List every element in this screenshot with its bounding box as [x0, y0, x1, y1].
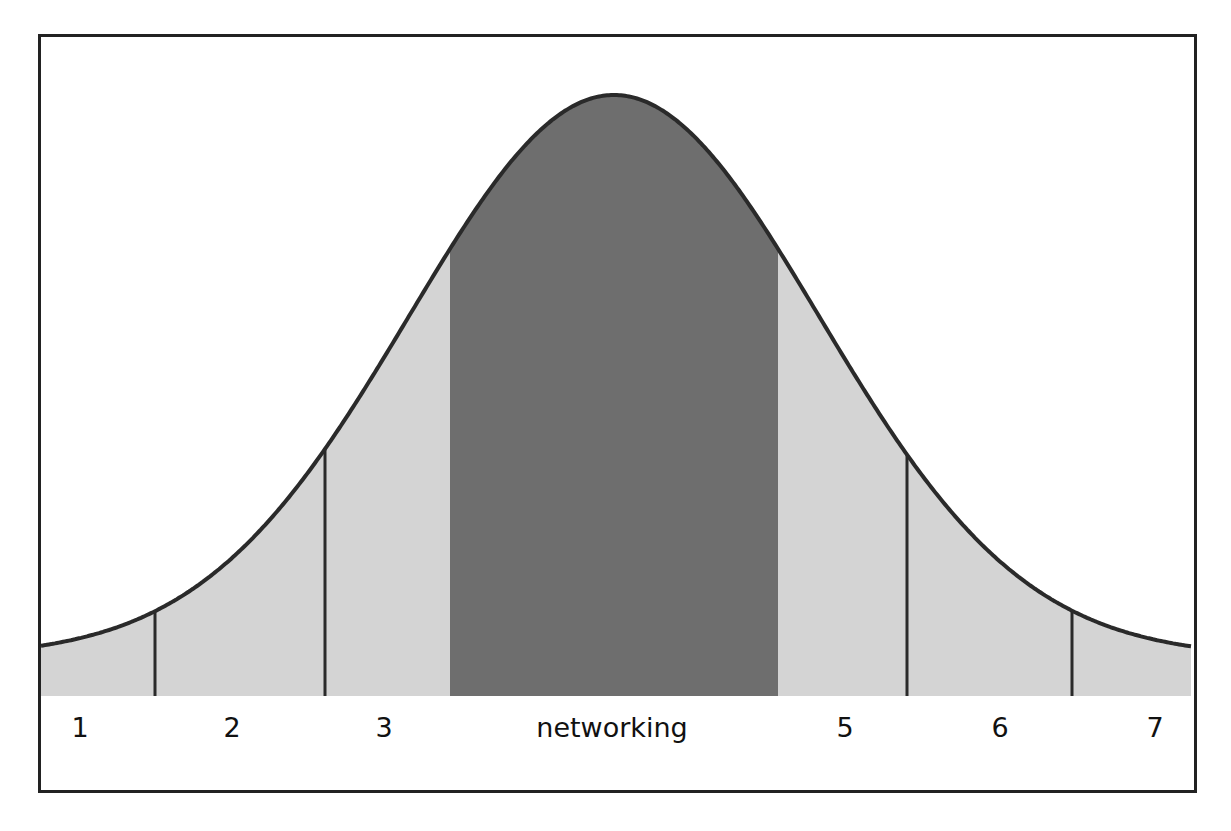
- segment-label-5: 5: [836, 712, 853, 743]
- segment-label-3: 3: [375, 712, 392, 743]
- segment-label-7: 7: [1146, 712, 1163, 743]
- bell-curve-graphic: [0, 0, 1231, 831]
- segment-label-4: networking: [536, 712, 687, 743]
- segment-label-6: 6: [991, 712, 1008, 743]
- segment-label-1: 1: [71, 712, 88, 743]
- segment-label-2: 2: [223, 712, 240, 743]
- highlight-band-networking: [450, 0, 778, 696]
